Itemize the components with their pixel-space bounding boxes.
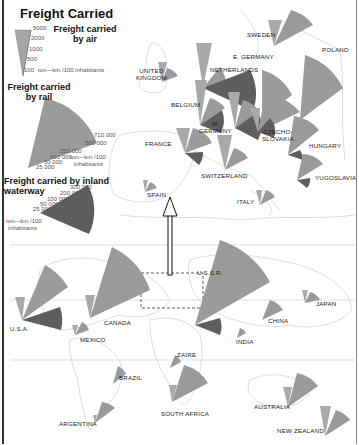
label-czechoslovakia: CZECHO- SLOVAKIA <box>262 128 294 142</box>
label-new-zealand: NEW ZEALAND <box>277 427 324 434</box>
label-poland: POLAND <box>322 46 349 53</box>
label-mexico: MEXICO <box>80 336 106 343</box>
label-france: FRANCE <box>145 140 172 147</box>
label-india: INDIA <box>236 338 254 345</box>
label-e-germany: E. GERMANY <box>233 53 274 60</box>
label-argentina: ARGENTINA <box>59 420 97 427</box>
label-australia: AUSTRALIA <box>254 403 290 410</box>
legend-waterway-title: Freight carried by inland waterway <box>4 176 109 196</box>
inset-arrow <box>163 197 177 275</box>
legend-air-title: Freight carried by air <box>50 24 120 44</box>
label-ussr: U.S.S.R. <box>197 269 223 276</box>
label-yugoslavia: YUGOSLAVIA <box>315 174 356 181</box>
label-brazil: BRAZIL <box>119 374 142 381</box>
label-china: CHINA <box>268 317 288 324</box>
label-w-germany: W. GERMANY <box>199 120 232 134</box>
label-zaire: ZAIRE <box>177 351 196 358</box>
label-sweden: SWEDEN <box>247 31 275 38</box>
label-belgium: BELGIUM <box>171 101 200 108</box>
label-hungary: HUNGARY <box>309 142 341 149</box>
label-united-kingdom: UNITED KINGDOM <box>136 67 167 81</box>
label-spain: SPAIN <box>147 191 166 198</box>
label-japan: JAPAN <box>316 300 336 307</box>
label-italy: ITALY <box>237 198 254 205</box>
legend-rail-title: Freight carried by rail <box>4 82 74 102</box>
label-south-africa: SOUTH AFRICA <box>161 410 209 417</box>
page-title: Freight Carried <box>20 6 113 21</box>
label-netherlands: NETHERLANDS <box>210 66 258 73</box>
label-usa: U.S.A. <box>10 325 29 332</box>
label-switzerland: SWITZERLAND <box>201 172 248 179</box>
wedges-world <box>15 240 350 436</box>
label-canada: CANADA <box>104 319 131 326</box>
